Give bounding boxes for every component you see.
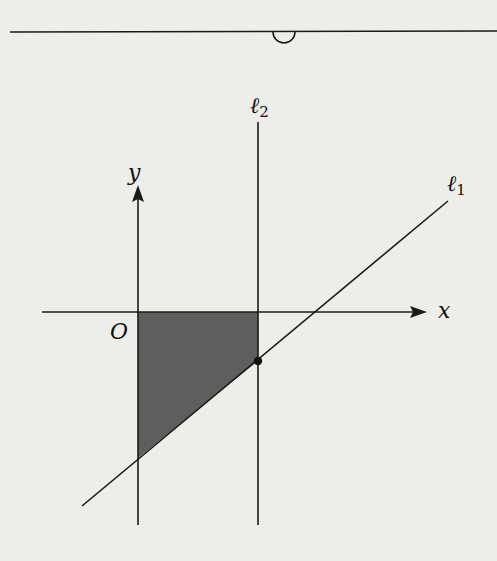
top-rule [10, 31, 497, 32]
line-l2-label: ℓ2 [250, 93, 269, 121]
line-l1-subscript: 1 [456, 181, 466, 199]
top-semicircle [273, 32, 295, 43]
line-l1-label: ℓ1 [447, 171, 466, 199]
origin-label: O [110, 319, 128, 344]
shaded-region [138, 312, 258, 458]
diagram-canvas: y x O ℓ2 ℓ1 [0, 0, 497, 561]
x-axis-label: x [438, 298, 451, 323]
line-l2-subscript: 2 [259, 103, 269, 121]
intersection-point [254, 357, 262, 365]
y-axis-label: y [127, 160, 141, 185]
line-l1 [82, 201, 448, 506]
